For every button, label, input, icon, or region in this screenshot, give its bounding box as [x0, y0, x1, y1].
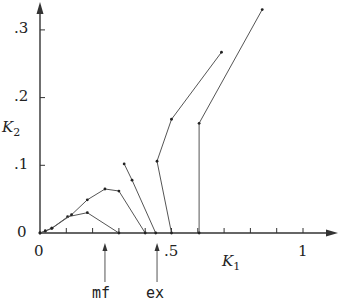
y-tick-label-0.2: .2 [14, 87, 28, 105]
y-tick-label-0: 0 [17, 223, 27, 241]
y-tick-label-0.1: .1 [14, 155, 28, 173]
data-point-marker [39, 232, 42, 235]
data-point-marker [220, 51, 223, 54]
series-line-curve-5 [199, 10, 262, 233]
data-point-marker [86, 211, 89, 214]
y-axis-label-main: K [2, 118, 13, 136]
data-series [39, 8, 264, 234]
y-axis-arrow-icon [37, 2, 44, 14]
x-axis-label-main: K [222, 252, 233, 270]
data-point-marker [198, 232, 201, 235]
series-line-curve-3 [124, 164, 156, 233]
data-point-marker [156, 160, 159, 163]
y-axis-label-sub: 2 [13, 126, 20, 139]
data-point-marker [144, 232, 147, 235]
x-tick-label-1: 1 [298, 242, 308, 260]
y-axis-label: K2 [2, 118, 20, 139]
data-point-marker [170, 232, 173, 235]
data-point-marker [104, 188, 107, 191]
data-point-marker [70, 213, 73, 216]
axes [37, 2, 339, 237]
x-tick-label-0.5: .5 [164, 242, 178, 260]
arrow-up-icon [155, 243, 160, 251]
data-point-marker [198, 122, 201, 125]
data-point-marker [170, 118, 173, 121]
data-point-marker [44, 230, 47, 233]
data-point-marker [86, 198, 89, 201]
data-point-marker [261, 8, 264, 11]
data-point-marker [50, 227, 53, 230]
data-point-marker [123, 163, 126, 166]
data-point-marker [131, 179, 134, 182]
data-point-marker [154, 232, 157, 235]
x-axis-arrow-icon [326, 230, 338, 237]
annotations [102, 243, 159, 282]
y-tick-label-0.3: .3 [14, 19, 28, 37]
x-axis-label: K1 [222, 252, 240, 273]
series-line-curve-2-upper [40, 189, 145, 233]
arrow-up-icon [102, 243, 107, 251]
data-point-marker [118, 232, 121, 235]
series-line-curve-4 [157, 52, 222, 233]
x-tick-label-0: 0 [34, 242, 44, 260]
annotation-ex: ex [146, 284, 164, 300]
data-point-marker [118, 190, 121, 193]
annotation-mf: mf [92, 284, 110, 300]
series-line-curve-1-lower [40, 213, 119, 233]
x-axis-label-sub: 1 [233, 260, 240, 273]
